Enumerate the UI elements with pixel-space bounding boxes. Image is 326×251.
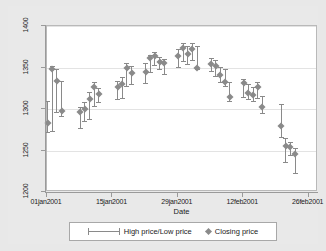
- closing-price-marker: [128, 70, 135, 77]
- closing-price-marker: [226, 93, 233, 100]
- diamond-marker-icon: [205, 228, 212, 235]
- range-bar-cap: [260, 113, 265, 114]
- y-axis-tick: [41, 25, 45, 26]
- range-bar-cap: [143, 83, 148, 84]
- gridline: [47, 68, 316, 69]
- closing-price-marker: [292, 150, 299, 157]
- y-axis-tick-label: 1400: [21, 18, 28, 33]
- range-bar-cap: [283, 138, 288, 139]
- range-bar-cap: [157, 69, 162, 70]
- y-axis-tick-label: 1200: [21, 184, 28, 199]
- range-bar-cap: [227, 82, 232, 83]
- y-axis-tick: [41, 108, 45, 109]
- x-axis-tick-label: 12feb2001: [227, 198, 258, 205]
- range-bar-cap: [260, 96, 265, 97]
- graph-region: 12001250130013501400 01jan200115jan20012…: [8, 6, 318, 244]
- range-bar-cap: [92, 106, 97, 107]
- range-bar-cap: [59, 81, 64, 82]
- range-bar-cap: [176, 67, 181, 68]
- y-axis-tick: [41, 150, 45, 151]
- range-bar-cap: [279, 104, 284, 105]
- range-bar-cap: [162, 74, 167, 75]
- x-axis-tick: [242, 193, 243, 197]
- gridline: [47, 151, 316, 152]
- range-bar-cap: [255, 98, 260, 99]
- y-axis-tick-label: 1350: [21, 59, 28, 74]
- range-bar-cap: [78, 128, 83, 129]
- range-bar-cap: [190, 60, 195, 61]
- range-bar-cap: [251, 101, 256, 102]
- closing-price-marker: [278, 122, 285, 129]
- x-axis-tick-label: 26feb2001: [292, 198, 323, 205]
- plot-area: [46, 25, 317, 191]
- range-bar-cap: [82, 121, 87, 122]
- range-bar-cap: [195, 46, 200, 47]
- x-axis-tick: [46, 193, 47, 197]
- range-bar-cap: [223, 69, 228, 70]
- range-bar-cap: [54, 69, 59, 70]
- range-bar-cap: [283, 162, 288, 163]
- x-axis-line: [45, 192, 318, 193]
- legend-entry-range: High price/Low price: [88, 227, 192, 236]
- closing-price-marker: [193, 64, 200, 71]
- legend-entry-close: Closing price: [206, 227, 258, 236]
- x-axis-tick-label: 15jan2001: [96, 198, 127, 205]
- range-bar-cap: [218, 67, 223, 68]
- closing-price-marker: [175, 52, 182, 59]
- x-axis-tick: [177, 193, 178, 197]
- y-axis-tick-label: 1250: [21, 142, 28, 157]
- closing-price-marker: [86, 95, 93, 102]
- x-axis-tick: [308, 193, 309, 197]
- range-bar-cap: [96, 102, 101, 103]
- range-bar-cap: [152, 65, 157, 66]
- chart-screenshot: 12001250130013501400 01jan200115jan20012…: [0, 0, 326, 251]
- range-bar-cap: [293, 173, 298, 174]
- x-axis-tick: [111, 193, 112, 197]
- range-bar-cap: [120, 98, 125, 99]
- y-axis-line: [45, 25, 46, 192]
- x-axis-tick-label: 01jan2001: [31, 198, 62, 205]
- legend-label-range: High price/Low price: [124, 227, 192, 236]
- x-axis-tick-label: 29jan2001: [161, 198, 192, 205]
- range-bar-cap: [185, 64, 190, 65]
- range-bar-cap: [143, 63, 148, 64]
- closing-price-marker: [95, 91, 102, 98]
- range-bar: [52, 66, 53, 132]
- chart-legend: High price/Low price Closing price: [69, 222, 277, 241]
- range-bar-cap: [246, 84, 251, 85]
- closing-price-marker: [161, 60, 168, 67]
- closing-price-marker: [81, 105, 88, 112]
- range-bar-cap: [50, 131, 55, 132]
- range-bar-cap: [181, 61, 186, 62]
- y-axis-tick-label: 1300: [21, 101, 28, 116]
- range-bar-cap: [87, 119, 92, 120]
- x-axis-title: Date: [46, 207, 317, 216]
- gridline: [47, 26, 316, 27]
- range-bar-cap: [129, 84, 134, 85]
- legend-label-close: Closing price: [215, 227, 258, 236]
- range-bar-cap: [209, 71, 214, 72]
- range-bar-cap: [148, 72, 153, 73]
- range-bar-cap: [124, 86, 129, 87]
- range-bar-icon: [88, 228, 120, 235]
- closing-price-marker: [254, 83, 261, 90]
- closing-price-marker: [58, 107, 65, 114]
- y-axis-tick: [41, 191, 45, 192]
- y-axis-tick: [41, 67, 45, 68]
